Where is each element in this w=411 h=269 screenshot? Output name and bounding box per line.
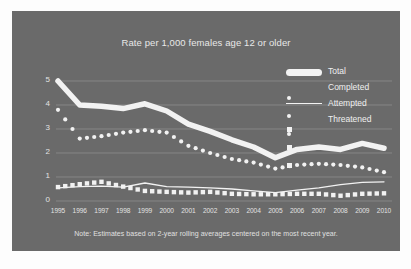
y-axis-tick-label: 4 xyxy=(36,99,50,108)
series-square xyxy=(193,190,197,194)
series-square xyxy=(266,192,270,196)
legend-label: Attempted xyxy=(328,97,367,110)
series-dot xyxy=(107,133,111,137)
series-dot xyxy=(136,129,140,133)
series-dot xyxy=(201,149,205,153)
series-dot xyxy=(375,169,379,173)
x-axis-tick-label: 2005 xyxy=(263,207,287,214)
series-square xyxy=(353,192,357,196)
series-square xyxy=(346,193,350,197)
x-axis-tick-label: 2004 xyxy=(242,207,266,214)
series-square xyxy=(85,181,89,185)
series-dot xyxy=(85,136,89,140)
y-axis-tick-label: 0 xyxy=(36,195,50,204)
series-dot xyxy=(237,158,241,162)
series-square xyxy=(280,192,284,196)
series-dot xyxy=(208,151,212,155)
series-dot xyxy=(353,165,357,169)
series-square xyxy=(375,191,379,195)
series-dot xyxy=(56,108,60,112)
series-square xyxy=(208,190,212,194)
chart-screenshot: Rate per 1,000 females age 12 or older 0… xyxy=(0,0,411,269)
series-square xyxy=(331,193,335,197)
squares-marker xyxy=(287,118,297,172)
series-dot xyxy=(259,163,263,167)
chart-footnote: Note: Estimates based on 2-year rolling … xyxy=(12,230,400,237)
series-dot xyxy=(121,131,125,135)
series-dot xyxy=(252,161,256,165)
series-square xyxy=(121,184,125,188)
legend-label: Completed xyxy=(328,81,369,94)
series-square xyxy=(164,190,168,194)
series-square xyxy=(367,191,371,195)
series-square xyxy=(143,189,147,193)
legend-label: Threatened xyxy=(328,113,371,126)
series-square xyxy=(382,191,386,195)
x-axis-tick-label: 1996 xyxy=(68,207,92,214)
series-square xyxy=(360,192,364,196)
series-square xyxy=(135,187,139,191)
thin-line-marker xyxy=(286,103,322,104)
series-square xyxy=(99,180,103,184)
series-dot xyxy=(302,163,306,167)
series-square xyxy=(230,192,234,196)
series-dot xyxy=(266,165,270,169)
series-dot xyxy=(186,144,190,148)
series-square xyxy=(201,190,205,194)
series-dot xyxy=(360,165,364,169)
series-square xyxy=(63,184,67,188)
series-dot xyxy=(157,130,161,134)
series-dot xyxy=(244,159,248,163)
series-dot xyxy=(346,164,350,168)
x-axis-tick-label: 2001 xyxy=(176,207,200,214)
series-dot xyxy=(114,132,118,136)
series-square xyxy=(128,186,132,190)
series-dot xyxy=(309,162,313,166)
series-square xyxy=(107,181,111,185)
series-dot xyxy=(324,162,328,166)
series-square xyxy=(114,183,118,187)
series-dot xyxy=(317,162,321,166)
series-square xyxy=(309,192,313,196)
series-dot xyxy=(230,157,234,161)
series-square xyxy=(215,190,219,194)
series-square xyxy=(172,190,176,194)
series-square xyxy=(302,192,306,196)
x-axis-tick-label: 1997 xyxy=(89,207,113,214)
series-square xyxy=(259,192,263,196)
series-dot xyxy=(331,163,335,167)
x-axis-tick-label: 2006 xyxy=(285,207,309,214)
series-dot xyxy=(165,131,169,135)
series-dot xyxy=(70,127,74,131)
y-axis-tick-label: 1 xyxy=(36,171,50,180)
series-dot xyxy=(367,167,371,171)
series-square xyxy=(150,189,154,193)
series-square xyxy=(338,194,342,198)
y-axis-tick-label: 2 xyxy=(36,147,50,156)
series-dot xyxy=(194,146,198,150)
x-axis-tick-label: 2002 xyxy=(198,207,222,214)
series-dot xyxy=(338,163,342,167)
series-dot xyxy=(99,134,103,138)
series-dot xyxy=(215,153,219,157)
chart-panel: Rate per 1,000 females age 12 or older 0… xyxy=(12,11,400,251)
series-square xyxy=(70,183,74,187)
series-dot xyxy=(92,135,96,139)
series-square xyxy=(157,189,161,193)
series-dot xyxy=(280,165,284,169)
x-axis-tick-label: 2009 xyxy=(350,207,374,214)
x-axis-tick-label: 2003 xyxy=(220,207,244,214)
series-square xyxy=(317,192,321,196)
y-axis-tick-label: 5 xyxy=(36,75,50,84)
x-axis-tick-label: 2000 xyxy=(155,207,179,214)
series-dot xyxy=(172,135,176,139)
x-axis-tick-label: 1995 xyxy=(46,207,70,214)
series-dot xyxy=(143,128,147,132)
series-square xyxy=(288,192,292,196)
series-dot xyxy=(273,167,277,171)
series-square xyxy=(324,192,328,196)
chart-plot-area xyxy=(12,11,400,251)
series-square xyxy=(78,182,82,186)
series-square xyxy=(179,190,183,194)
y-axis-tick-label: 3 xyxy=(36,123,50,132)
